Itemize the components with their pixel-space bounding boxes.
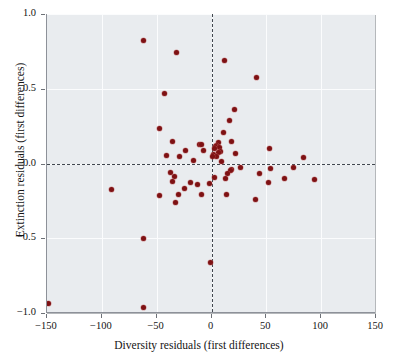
x-axis-tick-label: 50 (245, 320, 285, 331)
x-axis-tick-label: 0 (191, 320, 231, 331)
data-point (225, 171, 230, 176)
data-point (172, 174, 177, 179)
data-point (199, 142, 204, 147)
data-point (157, 193, 162, 198)
data-point (199, 192, 204, 197)
data-point (267, 146, 272, 151)
y-axis-title: Extinction residuals (first differences) (14, 0, 26, 300)
x-axis-title: Diversity residuals (first differences) (0, 339, 398, 351)
x-axis-tick-label: −150 (26, 320, 66, 331)
data-point (201, 148, 206, 153)
data-point (223, 176, 228, 181)
data-point (221, 130, 226, 135)
x-axis-tick (156, 314, 157, 318)
data-point (164, 153, 169, 158)
data-point (253, 197, 258, 202)
data-point (222, 58, 227, 63)
data-point (188, 180, 193, 185)
x-axis-tick (375, 314, 376, 318)
data-point (183, 148, 188, 153)
data-point (282, 176, 287, 181)
data-point (109, 187, 114, 192)
data-point (291, 165, 296, 170)
data-point (170, 179, 175, 184)
data-point (177, 154, 182, 159)
y-axis-tick (41, 313, 45, 314)
data-point (233, 151, 238, 156)
data-point (224, 192, 229, 197)
x-axis-tick (211, 314, 212, 318)
data-point (141, 305, 146, 310)
data-point (212, 175, 217, 180)
scatter-plot-figure: −150−100−50050100150−1.0−0.50.00.51.0 Di… (0, 0, 398, 362)
reference-line-y-zero (47, 164, 375, 165)
data-point (157, 126, 162, 131)
y-axis-tick (41, 14, 45, 15)
data-point (182, 186, 187, 191)
data-point (257, 171, 262, 176)
x-axis-tick (101, 314, 102, 318)
data-point (301, 155, 306, 160)
data-point (141, 236, 146, 241)
data-point (174, 50, 179, 55)
plot-area (46, 14, 375, 313)
x-axis-tick (265, 314, 266, 318)
y-axis-tick-label: −1.0 (2, 306, 36, 317)
data-point (238, 165, 243, 170)
data-point (227, 118, 232, 123)
data-point (312, 177, 317, 182)
x-axis-tick-label: −100 (81, 320, 121, 331)
data-point (46, 301, 51, 306)
data-point (207, 181, 212, 186)
x-axis-tick (320, 314, 321, 318)
data-point (173, 200, 178, 205)
data-point (210, 154, 215, 159)
data-point (229, 139, 234, 144)
x-axis-tick-label: 150 (355, 320, 395, 331)
data-point (266, 180, 271, 185)
data-point (170, 139, 175, 144)
x-axis-tick-label: 100 (300, 320, 340, 331)
y-axis-tick (41, 238, 45, 239)
data-point (195, 182, 200, 187)
data-point (268, 166, 273, 171)
y-axis-tick (41, 164, 45, 165)
x-axis-tick (46, 314, 47, 318)
data-point (232, 107, 237, 112)
x-axis-tick-label: −50 (136, 320, 176, 331)
data-point (141, 38, 146, 43)
data-point (162, 91, 167, 96)
data-point (254, 75, 259, 80)
data-point (176, 192, 181, 197)
y-axis-tick (41, 89, 45, 90)
